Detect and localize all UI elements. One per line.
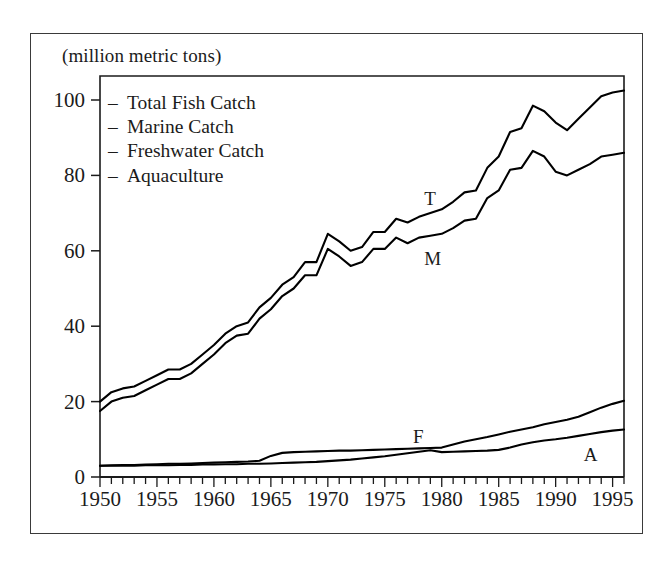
- chart-axes: [100, 76, 624, 477]
- series-annotation-aquaculture: A: [584, 445, 598, 464]
- series-annotation-total: T: [424, 189, 436, 208]
- figure-root: (million metric tons) –Total Fish Catch …: [0, 0, 663, 564]
- series-annotation-freshwater: F: [413, 427, 424, 446]
- series-line-marine-catch: [100, 151, 624, 411]
- series-line-total-fish-catch: [100, 91, 624, 402]
- series-line-freshwater-catch: [100, 401, 624, 466]
- series-line-aquaculture: [100, 430, 624, 466]
- plot-box: [100, 76, 624, 477]
- chart-plot-area: [0, 0, 663, 564]
- chart-tick-marks: [91, 100, 624, 487]
- series-annotation-marine: M: [424, 249, 441, 268]
- chart-series-lines: [100, 91, 624, 466]
